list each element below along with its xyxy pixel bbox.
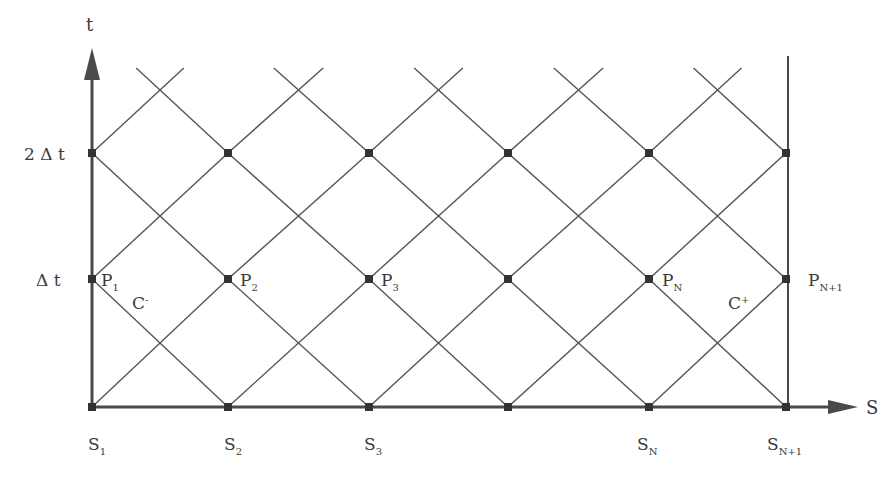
sn-label: SN <box>637 436 657 457</box>
grid-node <box>504 275 512 283</box>
characteristic-lines <box>92 68 786 407</box>
grid-node <box>365 275 373 283</box>
c-minus-label: C- <box>132 295 148 312</box>
grid-node <box>224 275 232 283</box>
p1-label: P1 <box>101 272 119 293</box>
grid-node <box>88 275 96 283</box>
grid-node <box>224 403 232 411</box>
grid-nodes <box>88 149 790 411</box>
grid-node <box>504 149 512 157</box>
grid-node <box>224 149 232 157</box>
grid-node <box>88 149 96 157</box>
grid-node <box>365 149 373 157</box>
p3-label: P3 <box>381 272 399 293</box>
s-axis-arrow-icon <box>828 400 858 414</box>
grid-node <box>782 403 790 411</box>
grid-node <box>645 275 653 283</box>
sn1-label: SN+1 <box>767 436 802 457</box>
t-tick-2dt: 2 Δ t <box>24 146 65 163</box>
grid-node <box>645 149 653 157</box>
s2-label: S2 <box>224 436 242 457</box>
s-axis-label: S <box>866 399 878 417</box>
t-axis-arrow-icon <box>84 48 100 80</box>
axes <box>84 48 858 414</box>
pn-label: PN <box>662 272 682 293</box>
t-tick-dt: Δ t <box>36 272 61 289</box>
grid-node <box>782 275 790 283</box>
c-plus-label: C+ <box>728 295 749 312</box>
s3-label: S3 <box>364 436 382 457</box>
grid-node <box>645 403 653 411</box>
s1-label: S1 <box>88 436 106 457</box>
grid-node <box>365 403 373 411</box>
characteristic-grid-diagram <box>0 0 896 477</box>
grid-node <box>782 149 790 157</box>
pn1-label: PN+1 <box>808 272 843 293</box>
grid-node <box>504 403 512 411</box>
p2-label: P2 <box>240 272 258 293</box>
grid-node <box>88 403 96 411</box>
t-axis-label: t <box>86 16 93 34</box>
